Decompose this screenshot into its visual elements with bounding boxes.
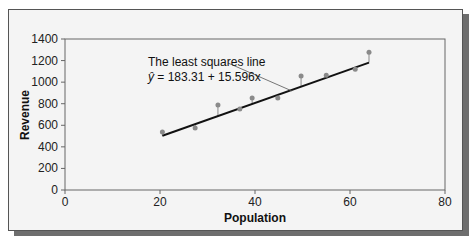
- x-axis: 020406080: [62, 190, 452, 209]
- x-tick-label: 0: [62, 195, 69, 209]
- x-tick-label: 20: [153, 195, 167, 209]
- x-tick-label: 80: [438, 195, 452, 209]
- x-axis-label: Population: [224, 211, 286, 225]
- data-point: [193, 126, 198, 131]
- data-point: [160, 130, 165, 135]
- x-tick-label: 60: [343, 195, 357, 209]
- data-point: [275, 96, 280, 101]
- data-point: [250, 96, 255, 101]
- data-point: [299, 74, 304, 79]
- data-point: [324, 73, 329, 78]
- data-point: [367, 50, 372, 55]
- y-axis-label: Revenue: [18, 90, 32, 140]
- y-tick-label: 200: [38, 161, 58, 175]
- y-tick-label: 1200: [31, 54, 58, 68]
- y-tick-label: 1400: [31, 32, 58, 46]
- y-tick-label: 800: [38, 97, 58, 111]
- annotation-equation: ŷ = 183.31 + 15.596x: [147, 70, 261, 84]
- y-tick-label: 400: [38, 140, 58, 154]
- data-point: [215, 103, 220, 108]
- data-point: [237, 107, 242, 112]
- annotation-title: The least squares line: [148, 55, 266, 69]
- x-tick-label: 40: [248, 195, 262, 209]
- data-point: [353, 67, 358, 72]
- scatter-chart: 0200400600800100012001400 020406080 Popu…: [0, 0, 474, 243]
- y-tick-label: 0: [51, 183, 58, 197]
- equation-body: = 183.31 + 15.596x: [154, 70, 261, 84]
- y-tick-label: 600: [38, 118, 58, 132]
- y-axis: 0200400600800100012001400: [31, 32, 65, 197]
- y-tick-label: 1000: [31, 75, 58, 89]
